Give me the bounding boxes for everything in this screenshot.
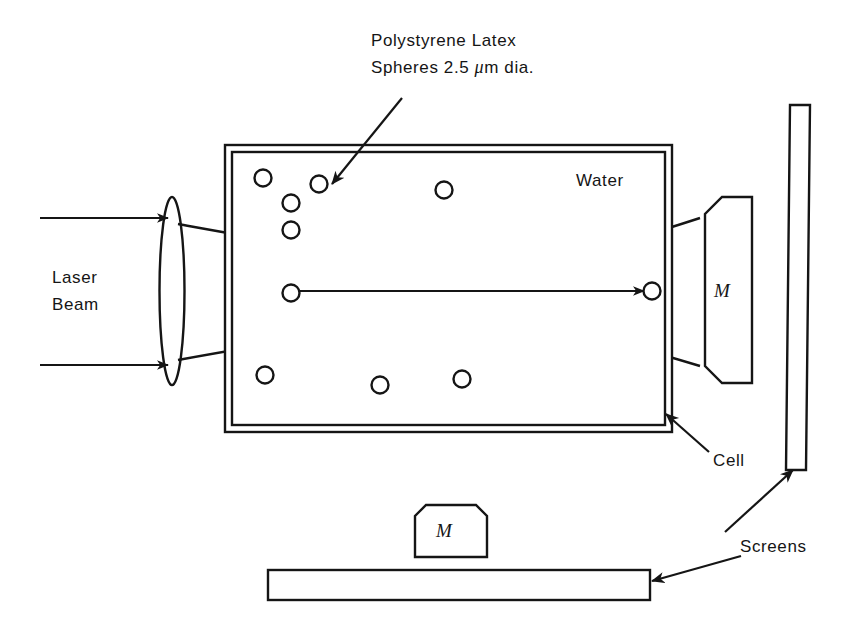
- mirror-bottom: M: [415, 505, 487, 557]
- latex-sphere: [436, 182, 453, 199]
- polystyrene-label-line2: Spheres 2.5 μm dia.: [371, 57, 534, 77]
- polystyrene-label-suffix: m dia.: [484, 58, 534, 77]
- mirror-right-label: M: [713, 280, 731, 301]
- water-label: Water: [576, 171, 624, 190]
- latex-sphere: [283, 222, 300, 239]
- diagram-canvas: M M Polystyrene Latex Spheres 2.5 μm dia…: [0, 0, 850, 631]
- screens-leader-arrow-up: [725, 470, 793, 532]
- latex-sphere: [257, 367, 274, 384]
- latex-sphere: [454, 371, 471, 388]
- incoming-laser-rays: [40, 218, 168, 365]
- mirror-right: M: [705, 197, 752, 383]
- optics-diagram: M M Polystyrene Latex Spheres 2.5 μm dia…: [0, 0, 850, 631]
- laser-label-line2: Beam: [52, 295, 99, 314]
- micron-symbol: μ: [474, 57, 485, 77]
- cell-label: Cell: [713, 451, 745, 470]
- latex-sphere: [283, 195, 300, 212]
- latex-sphere: [372, 377, 389, 394]
- screen-horizontal: [268, 570, 650, 600]
- latex-sphere: [311, 176, 328, 193]
- mirror-bottom-label: M: [435, 520, 453, 541]
- laser-label-line1: Laser: [52, 268, 98, 287]
- latex-sphere: [644, 283, 661, 300]
- screens-label: Screens: [740, 537, 807, 556]
- latex-sphere: [255, 170, 272, 187]
- polystyrene-label-line1: Polystyrene Latex: [371, 31, 516, 50]
- polystyrene-label-prefix: Spheres 2.5: [371, 58, 475, 77]
- screens-leader-arrow-down: [652, 556, 741, 581]
- focusing-lens: [160, 197, 185, 385]
- latex-sphere: [283, 285, 300, 302]
- screen-vertical: [786, 105, 810, 470]
